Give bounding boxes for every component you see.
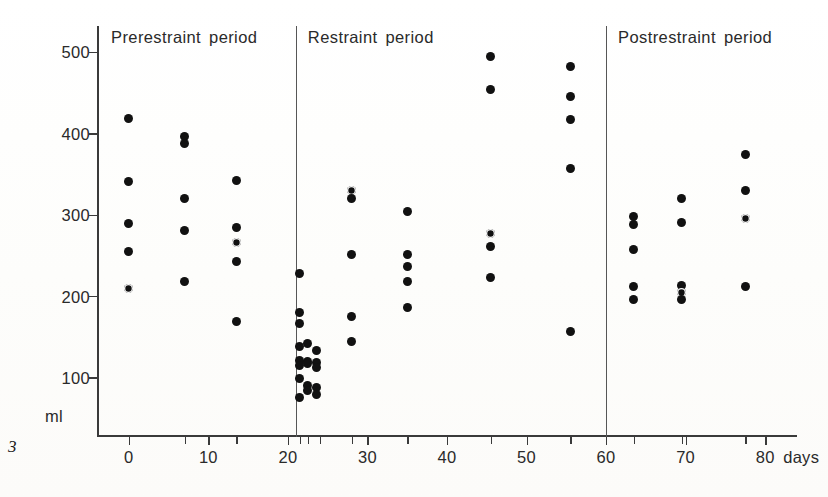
y-axis-unit-label: ml — [45, 407, 63, 426]
data-point — [629, 245, 638, 254]
data-point — [303, 386, 312, 395]
x-tick-minor — [236, 436, 237, 444]
x-tick-minor — [352, 436, 353, 444]
data-point — [486, 229, 495, 238]
data-point — [232, 257, 241, 266]
x-tick-30 — [367, 436, 368, 445]
data-point — [566, 164, 575, 173]
y-tick-label: 500 — [62, 43, 90, 62]
y-axis-line — [97, 26, 99, 437]
data-point — [741, 214, 750, 223]
x-tick-label-50: 50 — [517, 448, 536, 467]
data-point — [347, 337, 356, 346]
data-point — [677, 194, 686, 203]
data-point — [403, 277, 412, 286]
data-point — [486, 85, 495, 94]
data-point — [566, 115, 575, 124]
x-tick-minor — [491, 436, 492, 444]
x-tick-40 — [447, 436, 448, 445]
data-point — [741, 150, 750, 159]
data-point — [180, 194, 189, 203]
data-point — [629, 295, 638, 304]
y-tick-mark — [89, 52, 97, 53]
data-point — [566, 62, 575, 71]
data-point — [677, 218, 686, 227]
x-tick-label-0: 0 — [124, 448, 133, 467]
y-tick-mark — [89, 296, 97, 297]
data-point — [124, 284, 133, 293]
data-point — [403, 207, 412, 216]
period-label-postrestraint: Postrestraint period — [618, 28, 772, 47]
data-point — [124, 247, 133, 256]
data-point — [232, 238, 241, 247]
x-tick-minor — [682, 436, 683, 444]
period-label-restraint: Restraint period — [308, 28, 434, 47]
data-point — [486, 273, 495, 282]
x-tick-0 — [129, 436, 130, 445]
x-tick-label-30: 30 — [358, 448, 377, 467]
x-tick-minor — [745, 436, 746, 444]
data-point — [403, 303, 412, 312]
x-tick-label-40: 40 — [438, 448, 457, 467]
figure-container: 3 500400300200100 ml 01020304050607080 d… — [0, 0, 828, 497]
data-point — [741, 186, 750, 195]
data-point — [295, 269, 304, 278]
x-tick-10 — [208, 436, 209, 445]
x-tick-80 — [765, 436, 766, 445]
data-point — [347, 312, 356, 321]
y-tick-mark — [89, 133, 97, 134]
data-point — [232, 223, 241, 232]
x-tick-minor — [185, 436, 186, 444]
x-tick-label-20: 20 — [278, 448, 297, 467]
data-point — [629, 282, 638, 291]
data-point — [677, 295, 686, 304]
data-point — [124, 219, 133, 228]
y-tick-label: 300 — [62, 206, 90, 225]
data-point — [232, 176, 241, 185]
data-point — [180, 277, 189, 286]
data-point — [295, 308, 304, 317]
period-label-prerestraint: Prerestraint period — [111, 28, 257, 47]
data-point — [180, 226, 189, 235]
data-point — [403, 262, 412, 271]
y-tick-label: 400 — [62, 124, 90, 143]
x-tick-minor — [634, 436, 635, 444]
x-tick-20 — [288, 436, 289, 445]
data-point — [566, 327, 575, 336]
y-tick-mark — [89, 377, 97, 378]
x-tick-70 — [686, 436, 687, 445]
data-point — [566, 92, 575, 101]
data-point — [124, 177, 133, 186]
data-point — [303, 359, 312, 368]
plot-area: 500400300200100 ml 01020304050607080 day… — [97, 26, 797, 437]
x-tick-minor — [300, 436, 301, 444]
x-tick-label-80: 80 — [756, 448, 775, 467]
figure-number: 3 — [8, 437, 17, 457]
data-point — [347, 250, 356, 259]
data-point — [312, 363, 321, 372]
x-tick-minor — [320, 436, 321, 444]
data-point — [303, 339, 312, 348]
x-axis-unit-label: days — [783, 448, 819, 467]
x-tick-label-10: 10 — [199, 448, 218, 467]
y-tick-label: 200 — [62, 287, 90, 306]
data-point — [180, 139, 189, 148]
y-tick-label: 100 — [62, 369, 90, 388]
data-point — [312, 346, 321, 355]
data-point — [232, 317, 241, 326]
x-tick-label-60: 60 — [597, 448, 616, 467]
data-point — [486, 242, 495, 251]
x-tick-label-70: 70 — [676, 448, 695, 467]
x-tick-50 — [527, 436, 528, 445]
data-point — [629, 220, 638, 229]
period-divider-day-60 — [606, 26, 607, 437]
data-point — [295, 319, 304, 328]
data-point — [347, 194, 356, 203]
x-tick-minor — [570, 436, 571, 444]
data-point — [312, 390, 321, 399]
data-point — [741, 282, 750, 291]
x-tick-minor — [407, 436, 408, 444]
x-tick-60 — [606, 436, 607, 445]
y-tick-mark — [89, 215, 97, 216]
data-point — [124, 114, 133, 123]
